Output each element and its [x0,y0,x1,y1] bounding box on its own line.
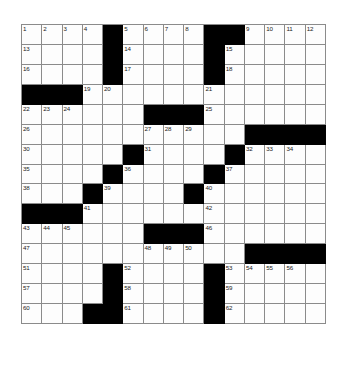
letter-cell[interactable] [164,85,184,105]
letter-cell[interactable] [42,304,62,324]
letter-cell[interactable] [42,264,62,284]
letter-cell[interactable] [123,244,143,264]
letter-cell[interactable] [63,304,83,324]
letter-cell[interactable]: 55 [265,264,285,284]
letter-cell[interactable]: 39 [103,184,123,204]
letter-cell[interactable] [306,284,326,304]
letter-cell[interactable] [164,284,184,304]
letter-cell[interactable] [164,65,184,85]
letter-cell[interactable] [225,125,245,145]
letter-cell[interactable] [144,264,164,284]
letter-cell[interactable] [225,85,245,105]
letter-cell[interactable]: 34 [285,145,305,165]
letter-cell[interactable] [144,45,164,65]
letter-cell[interactable]: 13 [22,45,42,65]
letter-cell[interactable] [306,105,326,125]
letter-cell[interactable] [306,224,326,244]
letter-cell[interactable] [144,284,164,304]
letter-cell[interactable] [265,45,285,65]
letter-cell[interactable] [83,45,103,65]
letter-cell[interactable] [245,204,265,224]
letter-cell[interactable] [306,264,326,284]
letter-cell[interactable]: 20 [103,85,123,105]
letter-cell[interactable] [164,45,184,65]
letter-cell[interactable] [306,145,326,165]
letter-cell[interactable] [285,85,305,105]
letter-cell[interactable] [245,85,265,105]
letter-cell[interactable]: 61 [123,304,143,324]
letter-cell[interactable]: 37 [225,165,245,185]
letter-cell[interactable]: 35 [22,165,42,185]
letter-cell[interactable] [63,45,83,65]
letter-cell[interactable] [184,45,204,65]
letter-cell[interactable] [204,125,224,145]
letter-cell[interactable] [63,244,83,264]
letter-cell[interactable]: 15 [225,45,245,65]
letter-cell[interactable] [83,244,103,264]
letter-cell[interactable]: 50 [184,244,204,264]
letter-cell[interactable] [225,204,245,224]
letter-cell[interactable] [144,65,164,85]
letter-cell[interactable] [265,184,285,204]
letter-cell[interactable] [265,304,285,324]
letter-cell[interactable]: 14 [123,45,143,65]
letter-cell[interactable] [103,125,123,145]
letter-cell[interactable] [306,65,326,85]
letter-cell[interactable] [164,165,184,185]
letter-cell[interactable] [63,165,83,185]
letter-cell[interactable]: 3 [63,25,83,45]
letter-cell[interactable]: 7 [164,25,184,45]
letter-cell[interactable]: 59 [225,284,245,304]
letter-cell[interactable]: 54 [245,264,265,284]
letter-cell[interactable] [285,304,305,324]
letter-cell[interactable] [204,244,224,264]
letter-cell[interactable] [245,105,265,125]
letter-cell[interactable] [164,145,184,165]
letter-cell[interactable]: 41 [83,204,103,224]
letter-cell[interactable]: 24 [63,105,83,125]
letter-cell[interactable] [144,304,164,324]
letter-cell[interactable] [306,85,326,105]
letter-cell[interactable] [83,284,103,304]
letter-cell[interactable] [63,145,83,165]
letter-cell[interactable]: 26 [22,125,42,145]
letter-cell[interactable]: 33 [265,145,285,165]
letter-cell[interactable] [245,184,265,204]
letter-cell[interactable]: 49 [164,244,184,264]
letter-cell[interactable]: 38 [22,184,42,204]
letter-cell[interactable] [285,284,305,304]
letter-cell[interactable] [245,45,265,65]
letter-cell[interactable]: 8 [184,25,204,45]
letter-cell[interactable]: 43 [22,224,42,244]
letter-cell[interactable] [144,184,164,204]
letter-cell[interactable]: 18 [225,65,245,85]
letter-cell[interactable]: 60 [22,304,42,324]
letter-cell[interactable]: 31 [144,145,164,165]
letter-cell[interactable] [164,304,184,324]
letter-cell[interactable] [42,244,62,264]
letter-cell[interactable] [184,165,204,185]
letter-cell[interactable] [265,165,285,185]
letter-cell[interactable] [83,145,103,165]
letter-cell[interactable] [123,105,143,125]
letter-cell[interactable] [285,65,305,85]
letter-cell[interactable]: 30 [22,145,42,165]
letter-cell[interactable] [42,184,62,204]
letter-cell[interactable] [225,224,245,244]
letter-cell[interactable] [245,224,265,244]
letter-cell[interactable] [265,65,285,85]
letter-cell[interactable]: 2 [42,25,62,45]
letter-cell[interactable]: 25 [204,105,224,125]
letter-cell[interactable] [245,284,265,304]
letter-cell[interactable]: 1 [22,25,42,45]
letter-cell[interactable] [285,165,305,185]
letter-cell[interactable]: 5 [123,25,143,45]
letter-cell[interactable] [245,65,265,85]
letter-cell[interactable]: 23 [42,105,62,125]
letter-cell[interactable] [285,45,305,65]
letter-cell[interactable] [42,45,62,65]
letter-cell[interactable]: 29 [184,125,204,145]
letter-cell[interactable]: 6 [144,25,164,45]
letter-cell[interactable] [225,105,245,125]
letter-cell[interactable] [306,304,326,324]
